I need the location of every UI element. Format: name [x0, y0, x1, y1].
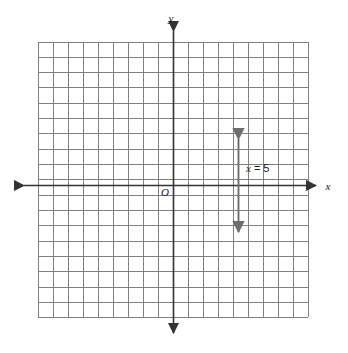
- equation-label: x=5: [245, 162, 269, 174]
- x-axis-label: x: [325, 180, 331, 192]
- y-axis: y: [168, 12, 174, 333]
- coordinate-plane-svg: x y O x=5: [0, 0, 348, 353]
- equation-operator: =: [254, 162, 260, 174]
- x-axis: x: [24, 180, 331, 192]
- origin-label: O: [161, 186, 169, 198]
- equation-variable: x: [245, 162, 251, 174]
- stray-dot-mark: [305, 190, 307, 192]
- equation-value: 5: [263, 162, 269, 174]
- y-axis-label: y: [168, 12, 174, 24]
- coordinate-plane-figure: x y O x=5: [0, 0, 348, 353]
